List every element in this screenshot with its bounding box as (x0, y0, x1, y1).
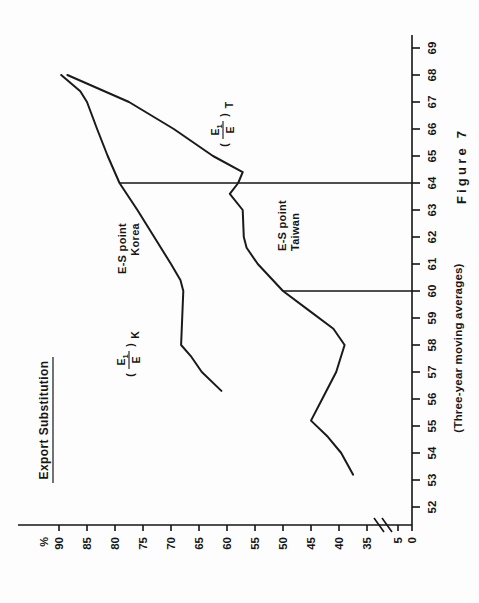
taiwan-curve-label: E1 E ( ) T (209, 101, 236, 147)
y-tick-label-0: 0 (406, 537, 418, 543)
x-tick-label-68: 68 (426, 68, 438, 81)
taiwan-label-paren-open: ( (218, 143, 230, 147)
x-tick-label-57: 57 (426, 366, 438, 379)
taiwan-label-denominator: E (224, 126, 236, 133)
y-tick-label-90: 90 (53, 537, 65, 550)
x-tick-label-69: 69 (426, 42, 438, 55)
y-axis-ticks: 0 5 35 40 45 50 (38, 525, 418, 550)
taiwan-label-subscript-T: T (223, 101, 235, 108)
korea-label-paren-open: ( (124, 373, 136, 377)
y-tick-label-85: 85 (81, 536, 93, 549)
korea-label-paren-close: ) (124, 343, 136, 347)
svg-text:E1: E1 (209, 124, 224, 135)
page-title: Export Substitution (37, 361, 51, 480)
rotated-figure-stage: 0 5 35 40 45 50 (0, 0, 479, 603)
series-korea-line (61, 75, 221, 391)
x-tick-label-66: 66 (426, 123, 438, 136)
es-point-markers (120, 183, 413, 291)
x-axis-ticks: 52 53 54 55 56 57 58 59 (412, 42, 438, 514)
taiwan-label-numerator: E (209, 129, 221, 136)
chart-title-group: Export Substitution (37, 357, 53, 483)
taiwan-label-paren-close: ) (218, 113, 230, 117)
figure-number-label: Figure 7 (454, 128, 469, 204)
x-tick-label-58: 58 (426, 338, 438, 351)
es-point-taiwan-annotation: E-S point Taiwan (276, 200, 301, 251)
x-tick-label-62: 62 (426, 231, 438, 244)
y-tick-label-5: 5 (392, 536, 404, 543)
y-axis-unit-label: % (38, 537, 50, 547)
korea-curve-label: E1 E ( ) K (115, 331, 142, 377)
x-tick-label-53: 53 (426, 474, 438, 487)
korea-label-numerator: E (115, 359, 127, 366)
y-tick-label-55: 55 (249, 536, 261, 549)
series-group (61, 75, 353, 475)
y-tick-label-75: 75 (137, 536, 149, 549)
x-tick-label-65: 65 (426, 149, 438, 162)
chart-subtitle: (Three-year moving averages) (452, 263, 464, 432)
y-tick-label-50: 50 (277, 537, 289, 550)
figure-root: 0 5 35 40 45 50 (0, 0, 479, 603)
x-tick-label-63: 63 (426, 204, 438, 217)
svg-text:E1: E1 (115, 354, 130, 365)
es-point-korea-label-line1: E-S point (116, 223, 128, 274)
x-tick-label-60: 60 (426, 285, 438, 298)
y-tick-label-40: 40 (333, 537, 345, 550)
y-tick-label-35: 35 (361, 536, 373, 549)
axis-group (18, 35, 412, 532)
y-tick-label-80: 80 (109, 537, 121, 550)
es-point-taiwan-label-line2: Taiwan (289, 213, 301, 251)
korea-label-subscript-K: K (129, 331, 141, 339)
y-tick-label-60: 60 (221, 537, 233, 550)
x-tick-label-52: 52 (426, 501, 438, 514)
y-tick-label-70: 70 (165, 537, 177, 550)
es-point-korea-annotation: E-S point Korea (116, 222, 141, 274)
es-point-korea-label-line2: Korea (129, 222, 141, 255)
x-tick-label-61: 61 (426, 257, 438, 270)
x-tick-label-59: 59 (426, 312, 438, 325)
export-substitution-line-chart: 0 5 35 40 45 50 (0, 0, 479, 603)
x-tick-label-56: 56 (426, 393, 438, 406)
x-tick-label-54: 54 (426, 446, 438, 459)
plot-wrapper: 0 5 35 40 45 50 (0, 0, 479, 603)
x-tick-label-55: 55 (426, 419, 438, 432)
x-tick-label-64: 64 (426, 176, 438, 189)
korea-label-denominator: E (130, 356, 142, 363)
es-point-taiwan-label-line1: E-S point (276, 200, 288, 251)
y-tick-label-65: 65 (193, 536, 205, 549)
y-tick-label-45: 45 (305, 536, 317, 549)
x-tick-label-67: 67 (426, 96, 438, 109)
